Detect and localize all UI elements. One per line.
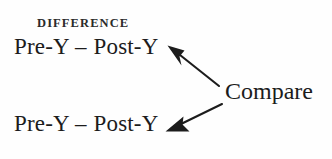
expression-top-left-term: Pre-Y [14,34,70,59]
arrow-up-left-icon [168,46,220,87]
expression-difference-bottom: Pre-Y–Post-Y [14,111,159,137]
compare-label: Compare [225,78,313,104]
arrow-down-left-icon [166,104,223,132]
expression-bottom-left-term: Pre-Y [14,111,70,136]
difference-compare-diagram: DIFFERENCE Pre-Y–Post-Y Pre-Y–Post-Y Com… [0,0,332,159]
difference-heading: DIFFERENCE [37,16,129,30]
expression-difference-top: Pre-Y–Post-Y [14,34,159,60]
expression-top-right-term: Post-Y [93,34,158,59]
expression-top-operator: – [70,34,94,59]
expression-bottom-operator: – [70,111,94,136]
expression-bottom-right-term: Post-Y [93,111,158,136]
